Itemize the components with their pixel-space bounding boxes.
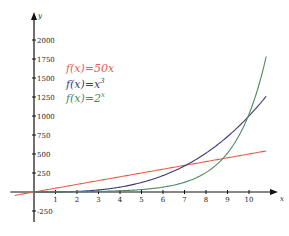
x-tick-label: 8 [204,196,208,204]
series-line-x-pow-3 [34,96,266,192]
x-axis-arrow-icon [270,189,278,195]
legend-label-50x: f(x)=50x [66,62,114,75]
x-tick-label: 9 [225,196,229,204]
x-tick-label: 7 [182,196,186,204]
legend-label-2-pow-x: f(x)=2 [66,92,101,105]
x-tick-label: 5 [139,196,143,204]
x-tick-label: 2 [75,196,79,204]
x-tick-label: 1 [53,196,57,204]
legend-label-x-cubed: f(x)=x [66,78,100,91]
x-axis-label: x [280,195,284,203]
legend-50x: f(x)=50x [66,62,114,75]
y-tick-label: -250 [37,208,53,216]
y-axis-label: y [37,12,43,20]
y-tick-label: 1500 [37,75,55,83]
y-tick-label: 500 [37,151,50,159]
y-tick-label: 1250 [37,94,55,102]
series-line-50x [15,151,267,195]
legend-x-cubed: f(x)=x3 [66,77,105,91]
x-tick-label: 6 [161,196,166,204]
y-tick-label: 750 [37,132,50,140]
y-tick-label: 1750 [37,56,55,64]
y-tick-label: 250 [37,170,50,178]
y-tick-label: 1000 [37,113,55,121]
x-tick-label: 10 [245,196,254,204]
legend-2-pow-x: f(x)=2x [66,91,105,105]
legend-sup: 3 [100,77,104,85]
y-axis-arrow-icon [31,12,37,20]
y-tick-label: 2000 [37,37,55,45]
x-tick-label: 4 [118,196,123,204]
chart-canvas: xy12345678910-25025050075010001250150017… [0,0,289,236]
legend-sup: x [101,91,105,99]
x-tick-label: 3 [96,196,100,204]
